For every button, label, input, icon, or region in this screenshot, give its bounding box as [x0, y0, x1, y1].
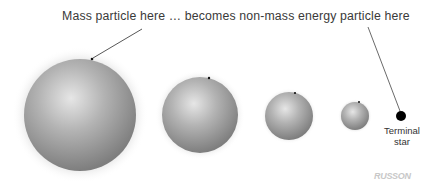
terminal-label-line1: Terminal	[381, 125, 423, 136]
leader-line-energy	[368, 27, 400, 111]
sphere-medium	[265, 92, 313, 140]
sphere-small	[341, 102, 369, 130]
mass-particle-dot	[208, 77, 210, 79]
diagram-canvas: Mass particle here … becomes non-mass en…	[0, 0, 430, 189]
leader-line-mass	[93, 29, 142, 58]
caption-text: Mass particle here … becomes non-mass en…	[62, 9, 410, 23]
sphere-largest	[24, 59, 136, 171]
mass-particle-dot	[358, 101, 360, 103]
sphere-large	[162, 77, 238, 153]
publisher-logo: RUSSON	[374, 171, 411, 181]
terminal-star	[396, 111, 406, 121]
terminal-star-label: Terminal star	[381, 125, 423, 147]
mass-particle-dot	[91, 58, 94, 61]
terminal-label-line2: star	[381, 136, 423, 147]
mass-particle-dot	[294, 92, 296, 94]
diagram-graphic	[0, 0, 430, 189]
